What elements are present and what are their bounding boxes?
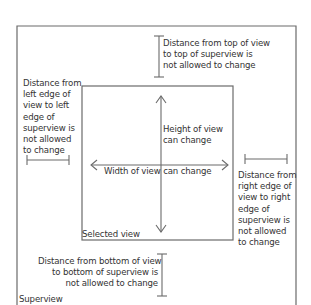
top-constraint-label: Distance from top of view to top of supe… [163,38,270,72]
width-label: Width of view can change [104,166,211,177]
right-constraint-label: Distance from right edge of view to righ… [238,170,296,248]
bottom-constraint-label: Distance from bottom of view to bottom o… [38,256,158,290]
selected-view-label: Selected view [82,229,140,240]
superview-label: Superview [19,294,63,305]
left-constraint-bracket-icon [27,155,69,165]
height-arrow-icon [156,96,166,232]
selected-view-box [82,86,233,240]
left-constraint-label: Distance from left edge of view to left … [23,78,81,156]
right-constraint-bracket-icon [245,154,287,164]
height-label: Height of view can change [163,124,223,146]
